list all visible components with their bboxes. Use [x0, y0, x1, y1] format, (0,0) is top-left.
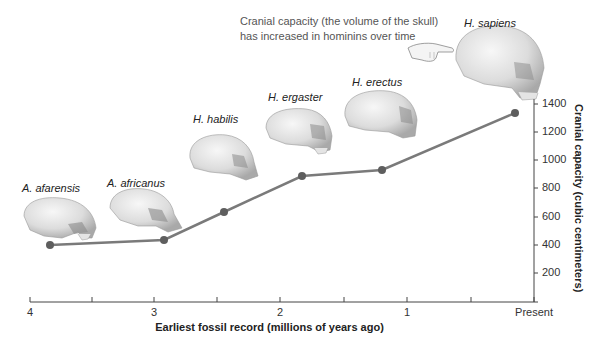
y-tick-1200: 1200 [542, 125, 566, 137]
annotation-line-2: has increased in hominins over time [240, 29, 438, 44]
y-tick-800: 800 [542, 181, 560, 193]
x-axis-title: Earliest fossil record (millions of year… [0, 321, 599, 333]
x-tick-3: 3 [151, 306, 157, 318]
marker-a-africanus [160, 236, 168, 244]
skull-h-habilis-icon [190, 135, 258, 180]
label-h-sapiens: H. sapiens [464, 17, 516, 29]
label-a-afarensis: A. afarensis [22, 182, 80, 194]
skull-a-africanus-icon [110, 189, 182, 232]
x-tick-2: 2 [277, 306, 283, 318]
y-tick-600: 600 [542, 210, 560, 222]
label-h-ergaster: H. ergaster [268, 91, 322, 103]
y-axis-title: Cranial capacity (cubic centimeters) [573, 104, 585, 292]
x-tick-present: Present [515, 306, 553, 318]
annotation-line-1: Cranial capacity (the volume of the skul… [240, 14, 438, 29]
y-tick-200: 200 [542, 266, 560, 278]
chart-canvas [0, 0, 599, 347]
label-h-habilis: H. habilis [193, 113, 238, 125]
skull-h-sapiens-icon [456, 26, 544, 100]
y-tick-400: 400 [542, 238, 560, 250]
x-axis [30, 297, 538, 302]
label-a-africanus: A. africanus [107, 177, 165, 189]
x-tick-1: 1 [404, 306, 410, 318]
skull-h-ergaster-icon [266, 109, 332, 154]
marker-h-erectus [378, 166, 386, 174]
skull-h-erectus-icon [345, 91, 417, 138]
skull-a-afarensis-icon [24, 198, 96, 240]
marker-h-sapiens [511, 109, 519, 117]
y-axis [534, 99, 538, 302]
y-tick-1000: 1000 [542, 153, 566, 165]
marker-h-ergaster [298, 172, 306, 180]
pointing-hand-icon [408, 43, 454, 61]
x-tick-4: 4 [27, 306, 33, 318]
y-tick-1400: 1400 [542, 97, 566, 109]
x-axis-title-text: Earliest fossil record (millions of year… [155, 321, 384, 333]
marker-a-afarensis [46, 241, 54, 249]
label-h-erectus: H. erectus [352, 76, 402, 88]
marker-h-habilis [220, 208, 228, 216]
annotation-text: Cranial capacity (the volume of the skul… [240, 14, 438, 44]
